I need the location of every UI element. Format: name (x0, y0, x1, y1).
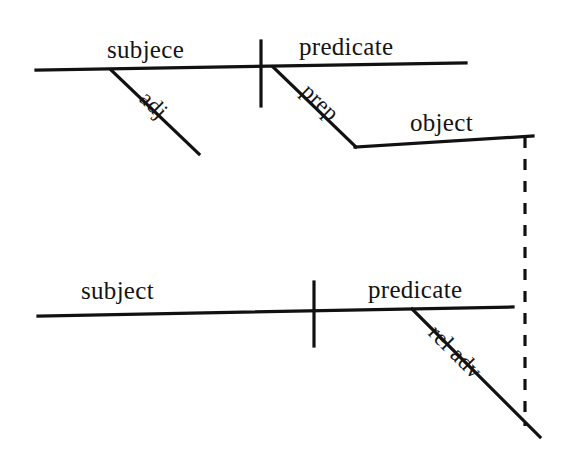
sentence-diagram: subjece predicate adj prep object subjec… (0, 0, 570, 461)
label-main-predicate: predicate (299, 33, 393, 60)
label-object: object (410, 109, 473, 136)
label-subordinate-subject: subject (81, 277, 154, 304)
label-subordinate-predicate: predicate (368, 276, 462, 303)
subordinate-clause-baseline (38, 307, 513, 316)
diagram-canvas: subjece predicate adj prep object subjec… (0, 0, 570, 461)
label-relative-adverb: rel adv (423, 320, 487, 384)
main-clause-baseline (36, 63, 466, 70)
label-adjective: adj (135, 86, 173, 124)
label-preposition: prep (297, 79, 345, 126)
object-baseline (355, 136, 533, 147)
label-main-subject: subjece (107, 36, 184, 63)
